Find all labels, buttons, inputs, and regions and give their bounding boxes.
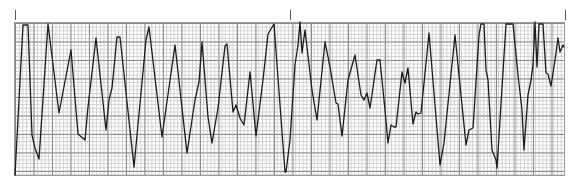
- ecg-trace-line: [15, 22, 564, 175]
- ecg-waveform: [0, 0, 576, 185]
